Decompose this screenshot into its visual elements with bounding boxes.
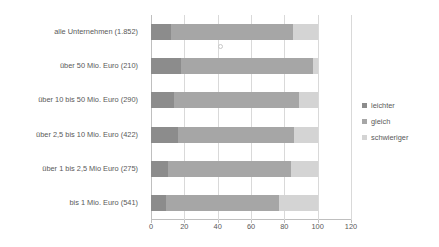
bar-segment-schwieriger xyxy=(299,92,317,108)
category-label: bis 1 Mio. Euro (541) xyxy=(0,198,138,207)
bar-segment-schwieriger xyxy=(293,24,318,40)
category-axis-labels: alle Unternehmen (1.852) über 50 Mio. Eu… xyxy=(0,15,144,220)
x-axis-tick-label: 60 xyxy=(247,222,255,231)
x-axis-tick-label: 40 xyxy=(214,222,222,231)
bar-segment-gleich xyxy=(166,195,279,211)
bar-segment-leichter xyxy=(151,161,168,177)
gridline xyxy=(318,15,319,220)
bar-segment-schwieriger xyxy=(313,58,318,74)
x-axis-tick-label: 80 xyxy=(280,222,288,231)
legend-item-leichter: leichter xyxy=(362,99,434,112)
bar-segment-gleich xyxy=(178,127,295,143)
bar-segment-leichter xyxy=(151,58,181,74)
x-axis-tick-label: 100 xyxy=(311,222,323,231)
bar-segment-leichter xyxy=(151,127,178,143)
bar-segment-leichter xyxy=(151,195,166,211)
bar-segment-leichter xyxy=(151,92,174,108)
category-label: über 50 Mio. Euro (210) xyxy=(0,61,138,70)
bar-segment-gleich xyxy=(174,92,299,108)
gridline xyxy=(351,15,352,220)
chart-legend: leichter gleich schwieriger xyxy=(362,99,434,147)
stray-artifact-marker xyxy=(218,44,223,49)
bar-row xyxy=(151,127,351,143)
x-axis-tick-labels: 020406080100120 xyxy=(151,222,351,234)
gridline xyxy=(184,15,185,220)
legend-swatch-icon xyxy=(362,135,367,140)
stacked-bar-chart: alle Unternehmen (1.852) über 50 Mio. Eu… xyxy=(0,0,439,247)
category-label: über 10 bis 50 Mio. Euro (290) xyxy=(0,95,138,104)
bar-segment-gleich xyxy=(171,24,293,40)
legend-label: leichter xyxy=(371,101,395,110)
legend-label: gleich xyxy=(371,117,390,126)
bar-segment-leichter xyxy=(151,24,171,40)
bar-row xyxy=(151,92,351,108)
legend-swatch-icon xyxy=(362,103,367,108)
bar-segment-gleich xyxy=(181,58,313,74)
category-label: alle Unternehmen (1.852) xyxy=(0,27,138,36)
gridline xyxy=(284,15,285,220)
legend-swatch-icon xyxy=(362,119,367,124)
bar-row xyxy=(151,195,351,211)
x-axis-tick-label: 20 xyxy=(180,222,188,231)
x-axis-tick-label: 0 xyxy=(149,222,153,231)
bar-segment-schwieriger xyxy=(291,161,318,177)
category-label: über 2,5 bis 10 Mio. Euro (422) xyxy=(0,130,138,139)
category-label: über 1 bis 2,5 Mio Euro (275) xyxy=(0,164,138,173)
gridline xyxy=(251,15,252,220)
bar-segment-gleich xyxy=(168,161,291,177)
legend-item-gleich: gleich xyxy=(362,115,434,128)
bar-row xyxy=(151,24,351,40)
y-axis-line xyxy=(151,15,152,220)
legend-item-schwieriger: schwieriger xyxy=(362,131,434,144)
x-axis-tick-label: 120 xyxy=(345,222,357,231)
plot-area xyxy=(151,15,351,220)
bar-segment-schwieriger xyxy=(279,195,317,211)
bar-segment-schwieriger xyxy=(294,127,317,143)
bar-row xyxy=(151,161,351,177)
bar-row xyxy=(151,58,351,74)
legend-label: schwieriger xyxy=(371,133,408,142)
